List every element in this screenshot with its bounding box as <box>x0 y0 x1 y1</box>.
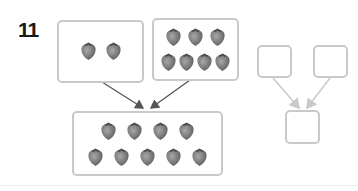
strawberry-icon <box>113 147 130 167</box>
strawberry-icon <box>187 27 204 47</box>
berry-row <box>74 147 221 167</box>
arrow-empty-right <box>307 78 330 108</box>
strawberry-icon <box>178 121 195 141</box>
strawberry-icon <box>196 52 213 72</box>
strawberry-icon <box>165 147 182 167</box>
answer-box-part-right[interactable] <box>313 45 348 78</box>
strawberry-icon <box>178 52 195 72</box>
strawberry-icon <box>139 147 156 167</box>
berry-row <box>59 41 142 61</box>
divider <box>0 185 358 186</box>
berry-row <box>154 52 237 72</box>
answer-box-whole[interactable] <box>285 110 320 144</box>
answer-box-part-left[interactable] <box>257 45 292 78</box>
berry-row <box>154 27 237 47</box>
strawberry-icon <box>126 121 143 141</box>
strawberry-icon <box>80 41 97 61</box>
strawberry-icon <box>165 27 182 47</box>
berry-row <box>74 121 221 141</box>
strawberry-icon <box>105 41 122 61</box>
part-box-left <box>57 20 144 83</box>
strawberry-icon <box>209 27 226 47</box>
strawberry-icon <box>214 52 231 72</box>
arrow-empty-left <box>273 78 299 108</box>
strawberry-icon <box>87 147 104 167</box>
part-box-right <box>152 18 239 81</box>
strawberry-icon <box>160 52 177 72</box>
arrow-left <box>102 82 143 108</box>
strawberry-icon <box>100 121 117 141</box>
arrow-right <box>151 80 190 108</box>
whole-box <box>72 111 223 176</box>
strawberry-icon <box>191 147 208 167</box>
strawberry-icon <box>152 121 169 141</box>
